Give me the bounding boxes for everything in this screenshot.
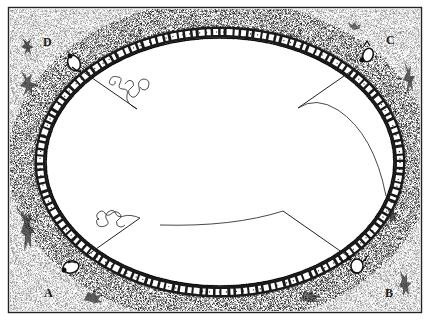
arena-svg <box>0 0 429 321</box>
corner-label-d: D <box>43 36 52 48</box>
corner-label-b: B <box>385 287 393 299</box>
corner-label-c: C <box>386 34 395 46</box>
corner-label-a: A <box>44 287 53 299</box>
arena-floor <box>47 39 393 285</box>
arena-illustration: D C A B <box>0 0 429 321</box>
